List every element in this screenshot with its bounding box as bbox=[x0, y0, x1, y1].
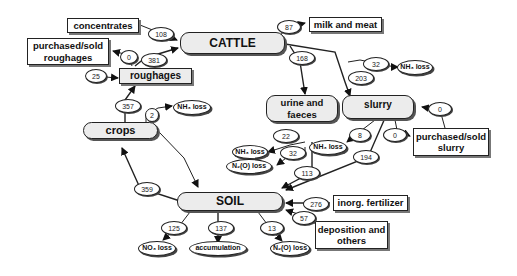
slurry-pool[interactable]: slurry bbox=[342, 95, 414, 119]
flow-concentrates-cattle: 108 bbox=[148, 27, 174, 41]
flow-cattle-urine: 168 bbox=[289, 51, 315, 65]
slurry-nh3-loss[interactable]: NH₃ loss bbox=[309, 140, 347, 155]
flow-roughages-cattle: 381 bbox=[141, 53, 167, 67]
purchased-slurry-box[interactable]: purchased/sold slurry bbox=[413, 128, 489, 156]
cattle-nh3-loss[interactable]: NH₃ loss bbox=[397, 60, 433, 75]
flow-cattle-nh3: 32 bbox=[363, 57, 389, 71]
soil-pool[interactable]: SOIL bbox=[177, 192, 283, 211]
inorg-fertilizer-box[interactable]: inorg. fertilizer bbox=[333, 195, 408, 211]
cattle-pool[interactable]: CATTLE bbox=[180, 32, 285, 54]
flow-roughages-purchased: 0 bbox=[120, 50, 138, 64]
crops-pool[interactable]: crops bbox=[83, 122, 158, 139]
purchased-roughages-box[interactable]: purchased/sold roughages bbox=[27, 38, 109, 65]
milk-meat-box[interactable]: milk and meat bbox=[309, 17, 382, 32]
urine-n2o-loss[interactable]: N₂(O) loss bbox=[226, 159, 272, 174]
flow-slurry-nh3: 8 bbox=[349, 128, 371, 142]
flow-soil-n2o: 13 bbox=[260, 221, 284, 235]
accumulation-loss[interactable]: accumulation bbox=[189, 241, 247, 256]
flow-depo-soil: 57 bbox=[292, 211, 316, 225]
flow-fert-soil: 276 bbox=[303, 197, 329, 211]
flow-cattle-slurry: 203 bbox=[348, 71, 374, 85]
flow-crops-roughages: 357 bbox=[115, 99, 141, 113]
concentrates-box[interactable]: concentrates bbox=[67, 18, 139, 33]
flow-purchased-roughages: 25 bbox=[85, 69, 107, 83]
flow-purchased-slurry-in: 0 bbox=[428, 102, 452, 116]
flow-crops-nh3: 2 bbox=[145, 108, 159, 122]
urine-faeces-pool[interactable]: urine and faeces bbox=[266, 95, 338, 122]
deposition-box[interactable]: deposition and others bbox=[315, 221, 388, 249]
flow-cattle-milk: 87 bbox=[277, 20, 301, 34]
flow-urine-nh3: 22 bbox=[273, 129, 299, 143]
flow-slurry-purchased-out: 0 bbox=[383, 128, 407, 142]
flow-soil-accum: 137 bbox=[208, 221, 234, 235]
flow-slurry-soil: 194 bbox=[353, 150, 379, 164]
flow-urine-n2o: 32 bbox=[280, 146, 306, 160]
roughages-pool[interactable]: roughages bbox=[119, 68, 192, 84]
flow-urine-soil: 113 bbox=[294, 166, 320, 180]
crops-nh3-loss[interactable]: NH₃ loss bbox=[173, 100, 211, 115]
soil-n2o-loss[interactable]: N₂(O) loss bbox=[270, 241, 310, 256]
soil-no3-loss[interactable]: NO₃ loss bbox=[138, 241, 176, 256]
flow-soil-crops: 359 bbox=[134, 182, 160, 196]
flow-soil-no3: 125 bbox=[161, 221, 187, 235]
urine-nh3-loss[interactable]: NH₃ loss bbox=[232, 145, 268, 159]
